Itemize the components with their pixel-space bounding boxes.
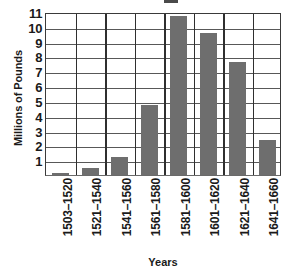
y-tick-label: 1 <box>22 155 42 168</box>
bars-layer <box>46 14 280 175</box>
x-axis-tick-labels: 1503–15201521–15401541–15601561–15801581… <box>45 178 281 250</box>
y-tick-label: 7 <box>22 66 42 79</box>
y-axis-tick-labels: 1234567891011 <box>22 13 42 176</box>
bar <box>82 168 99 175</box>
bar <box>111 157 128 175</box>
bar-chart-figure: Millions of Pounds 1234567891011 1503–15… <box>0 0 286 275</box>
x-tick-label: 1561–1580 <box>148 178 164 250</box>
bar <box>170 16 187 175</box>
x-tick-label: 1621–1640 <box>237 178 253 250</box>
y-tick-label: 10 <box>22 21 42 34</box>
plot-area <box>45 13 281 176</box>
bar <box>141 105 158 175</box>
y-tick-label: 9 <box>22 36 42 49</box>
x-tick-label: 1641–1660 <box>266 178 282 250</box>
x-tick-label: 1601–1620 <box>207 178 223 250</box>
y-tick-label: 3 <box>22 125 42 138</box>
x-tick-label: 1581–1600 <box>178 178 194 250</box>
y-tick-label: 11 <box>22 7 42 20</box>
bar <box>259 140 276 175</box>
x-tick-label: 1503–1520 <box>60 178 76 250</box>
y-tick-label: 8 <box>22 51 42 64</box>
cropped-title-remnant <box>164 0 178 3</box>
x-tick-label: 1541–1560 <box>119 178 135 250</box>
bar <box>52 173 69 175</box>
y-tick-label: 4 <box>22 110 42 123</box>
y-tick-label: 2 <box>22 140 42 153</box>
x-tick-label: 1521–1540 <box>89 178 105 250</box>
y-tick-label: 6 <box>22 81 42 94</box>
bar <box>229 62 246 175</box>
x-axis-title: Years <box>45 256 281 268</box>
y-tick-label: 5 <box>22 95 42 108</box>
bar <box>200 33 217 175</box>
